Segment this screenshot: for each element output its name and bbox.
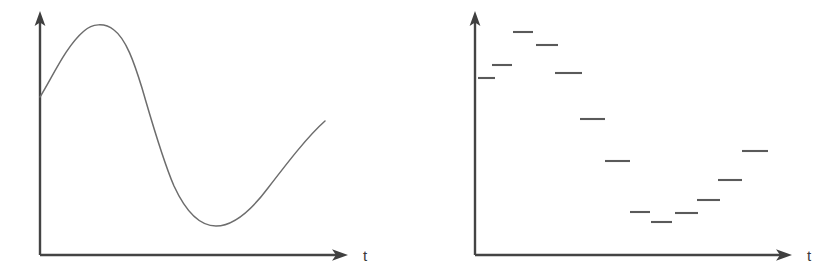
continuous-waveform-curve (40, 25, 325, 226)
left-y-axis (35, 11, 46, 255)
right-y-axis (470, 11, 481, 255)
left-x-axis (40, 249, 348, 261)
right-x-axis-label: t (807, 247, 812, 264)
right-plot-svg: t (414, 0, 828, 277)
left-plot-svg: t (0, 0, 414, 277)
left-x-axis-label: t (363, 247, 368, 264)
continuous-signal-plot: t (0, 0, 414, 277)
right-x-axis (475, 249, 792, 261)
quantized-sampled-signal-plot: t (414, 0, 828, 277)
figure-root: t t (0, 0, 828, 277)
quantized-sample-dashes (478, 32, 768, 222)
